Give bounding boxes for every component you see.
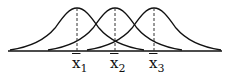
- mean-label-2: x2: [110, 56, 125, 71]
- mean-label-1: x1: [72, 56, 87, 71]
- mean-label-3: x3: [149, 56, 164, 71]
